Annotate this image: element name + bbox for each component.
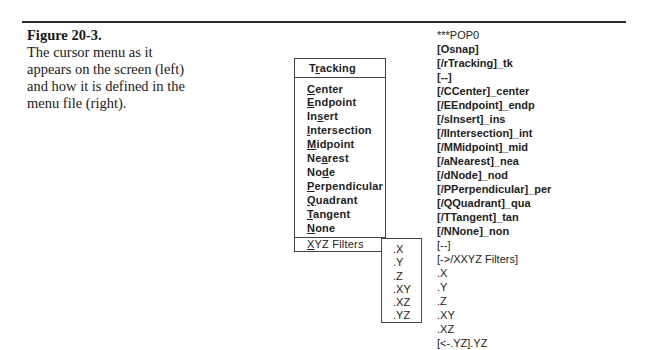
listing-line: [/sInsert]_ins [437, 112, 551, 126]
menu-item-center[interactable]: Center [307, 83, 343, 96]
menu-item-intersection[interactable]: Intersection [307, 124, 372, 137]
listing-line: [/MMidpoint]_mid [437, 140, 551, 154]
top-rule [22, 21, 626, 23]
listing-line: .X [437, 266, 551, 280]
submenu-item-yz[interactable]: .YZ [393, 309, 410, 322]
menu-file-listing: ***POP0 [Osnap] [/rTracking]_tk [--] [/C… [437, 28, 551, 350]
listing-line: [/PPerpendicular]_per [437, 182, 551, 196]
menu-item-midpoint[interactable]: Midpoint [307, 138, 354, 151]
listing-line: [/QQuadrant]_qua [437, 196, 551, 210]
listing-line: [/CCenter]_center [437, 84, 551, 98]
listing-line: [/TTangent]_tan [437, 210, 551, 224]
menu-item-endpoint[interactable]: Endpoint [307, 96, 356, 109]
cursor-menu: Tracking Center Endpoint Insert Intersec… [294, 58, 386, 252]
submenu-item-x[interactable]: .X [393, 243, 403, 256]
submenu-item-y[interactable]: .Y [393, 256, 403, 269]
menu-item-node[interactable]: Node [307, 166, 335, 179]
listing-line: [/NNone]_non [437, 224, 551, 238]
listing-line: [--] [437, 70, 551, 84]
listing-line: [/EEndpoint]_endp [437, 98, 551, 112]
figure-caption: Figure 20-3. The cursor menu as it appea… [27, 27, 227, 112]
listing-line: .XY [437, 308, 551, 322]
listing-line: [--] [437, 238, 551, 252]
listing-line: [<-.YZ].YZ [437, 336, 551, 350]
listing-line: [/IIntersection]_int [437, 126, 551, 140]
caption-line: and how it is defined in the [27, 78, 227, 95]
submenu-item-xy[interactable]: .XY [393, 283, 411, 296]
menu-item-none[interactable]: None [307, 222, 335, 235]
caption-line: The cursor menu as it [27, 44, 227, 61]
menu-item-xyz-filters[interactable]: XYZ Filters [307, 238, 364, 251]
menu-item-quadrant[interactable]: Quadrant [307, 194, 358, 207]
menu-item-tracking[interactable]: Tracking [295, 59, 385, 78]
submenu-item-xz[interactable]: .XZ [393, 296, 410, 309]
listing-line: .Y [437, 280, 551, 294]
figure-title: Figure 20-3. [27, 27, 227, 44]
xyz-filters-submenu: .X .Y .Z .XY .XZ .YZ [381, 238, 422, 323]
menu-item-label: Tracking [309, 62, 356, 75]
listing-line: [->/XXYZ Filters] [437, 252, 551, 266]
listing-line: ***POP0 [437, 28, 551, 42]
listing-line: [Osnap] [437, 42, 551, 56]
listing-line: [/aNearest]_nea [437, 154, 551, 168]
listing-line: [/dNode]_nod [437, 168, 551, 182]
listing-line: [/rTracking]_tk [437, 56, 551, 70]
menu-item-perpendicular[interactable]: Perpendicular [307, 180, 383, 193]
caption-line: appears on the screen (left) [27, 61, 227, 78]
submenu-item-z[interactable]: .Z [393, 270, 403, 283]
menu-item-tangent[interactable]: Tangent [307, 208, 350, 221]
caption-line: menu file (right). [27, 95, 227, 112]
listing-line: .XZ [437, 322, 551, 336]
menu-item-insert[interactable]: Insert [307, 110, 338, 123]
listing-line: .Z [437, 294, 551, 308]
menu-item-nearest[interactable]: Nearest [307, 152, 349, 165]
